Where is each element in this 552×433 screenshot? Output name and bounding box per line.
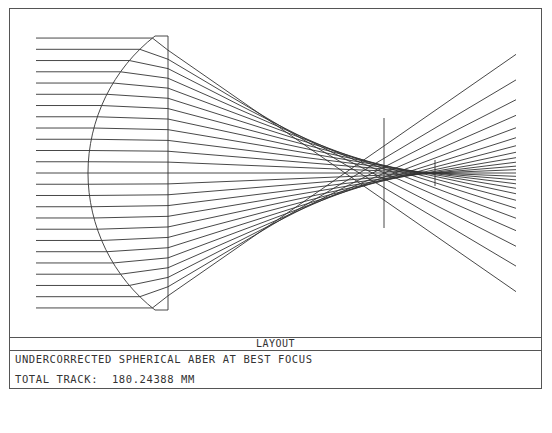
ray-in-lens <box>89 151 168 152</box>
ray-in-lens <box>107 94 168 98</box>
ray-in-lens <box>89 195 168 196</box>
ray-outgoing <box>168 119 516 194</box>
ray-in-lens <box>140 49 168 59</box>
ray-in-lens <box>97 117 168 119</box>
ray-in-lens <box>94 128 168 130</box>
ray-outgoing <box>168 162 516 176</box>
ray-in-lens <box>152 38 168 50</box>
ray-in-lens <box>113 83 168 88</box>
total-track-text: TOTAL TRACK: 180.24388 MM <box>15 373 195 385</box>
ray-outgoing <box>168 100 516 278</box>
total-track-label: TOTAL TRACK: <box>15 373 98 385</box>
ray-in-lens <box>129 61 168 69</box>
ray-in-lens <box>91 206 168 207</box>
ray-in-lens <box>102 106 168 109</box>
total-track-value: 180.24388 MM <box>112 373 195 385</box>
ray-in-lens <box>97 227 168 229</box>
ray-in-lens <box>152 296 168 308</box>
ray-in-lens <box>107 248 168 252</box>
panel-title: LAYOUT <box>9 337 542 351</box>
ray-in-lens <box>121 268 168 274</box>
ray-in-lens <box>91 139 168 140</box>
ray-in-lens <box>121 72 168 78</box>
ray-in-lens <box>102 237 168 240</box>
ray-trace-diagram <box>0 0 552 433</box>
ray-in-lens <box>140 287 168 297</box>
ray-in-lens <box>94 216 168 218</box>
ray-outgoing <box>168 152 516 227</box>
description-text: UNDERCORRECTED SPHERICAL ABER AT BEST FO… <box>15 353 313 365</box>
ray-outgoing <box>168 170 516 184</box>
ray-in-lens <box>129 277 168 285</box>
ray-outgoing <box>168 69 516 247</box>
ray-in-lens <box>113 258 168 263</box>
